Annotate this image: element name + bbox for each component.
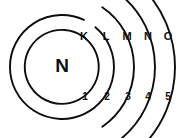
shell-diagram-canvas: N KLMNO 12345 bbox=[0, 0, 183, 138]
shell-arc-o bbox=[143, 0, 175, 138]
shell-arc-n bbox=[122, 0, 155, 138]
shell-letter-o: O bbox=[164, 30, 173, 42]
shell-letter-n: N bbox=[144, 30, 152, 42]
shell-number-5: 5 bbox=[165, 91, 171, 102]
shell-letter-m: M bbox=[122, 30, 131, 42]
shell-number-3: 3 bbox=[125, 91, 131, 102]
nucleus-label: N bbox=[55, 55, 69, 76]
electron-shell-diagram: N KLMNO 12345 bbox=[0, 0, 183, 138]
shell-arc-m bbox=[102, 7, 134, 126]
shell-letter-k: K bbox=[80, 30, 88, 42]
shell-letter-l: L bbox=[103, 30, 110, 42]
shell-number-4: 4 bbox=[145, 91, 151, 102]
shell-arc-group bbox=[10, 0, 175, 138]
shell-number-group: 12345 bbox=[82, 91, 171, 102]
shell-number-1: 1 bbox=[82, 91, 88, 102]
shell-number-2: 2 bbox=[104, 91, 110, 102]
shell-letter-group: KLMNO bbox=[80, 30, 173, 42]
